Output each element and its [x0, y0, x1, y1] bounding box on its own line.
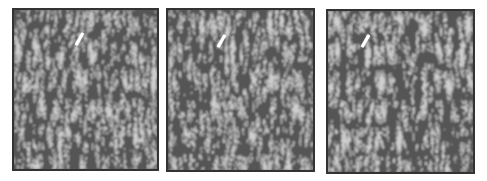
- pattern-panel-a: [12, 8, 159, 171]
- labyrinth-texture: [328, 11, 473, 172]
- labyrinth-texture: [14, 10, 157, 169]
- labyrinth-texture: [168, 10, 313, 170]
- pattern-panel-b: [166, 8, 315, 172]
- pattern-panel-c: [326, 9, 475, 174]
